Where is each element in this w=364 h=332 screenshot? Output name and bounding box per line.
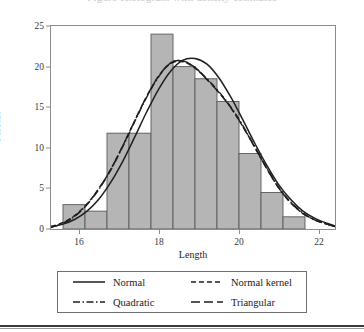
legend-line-swatch [190,277,224,287]
histogram-bar [129,133,151,229]
legend-item: Quadratic [58,297,182,308]
y-tick-label: 25 [35,21,45,31]
figure: Figure Histogram with density estimates … [0,0,364,332]
plot-area [50,25,336,230]
x-axis: 16182022 Length [50,230,336,256]
legend-label: Quadratic [113,297,154,308]
x-tick-mark [319,230,320,234]
y-axis-label: Percent [0,112,2,142]
histogram-bar [195,79,217,229]
x-tick-label: 20 [234,237,244,247]
chart-title-cropped: Figure Histogram with density estimates [0,0,364,9]
legend-item: Normal kernel [182,277,306,288]
histogram-bar [283,217,305,229]
plot-inner [51,26,335,229]
legend-line-swatch [190,297,224,307]
histogram-bar [85,211,107,229]
plot-svg [51,26,335,229]
legend-label: Normal [113,277,145,288]
x-tick-label: 18 [154,237,164,247]
x-tick-label: 16 [74,237,84,247]
legend-line-swatch [72,277,106,287]
legend-grid: NormalNormal kernelQuadraticTriangular [58,272,306,312]
legend: NormalNormal kernelQuadraticTriangular [57,271,307,313]
histogram-bar [217,102,239,229]
histogram-bar [261,192,283,229]
legend-item: Triangular [182,297,306,308]
histogram-bar [107,133,129,229]
x-tick-mark [79,230,80,234]
page-rule [0,325,364,327]
x-tick-label: 22 [314,237,324,247]
x-axis-label: Length [50,249,336,260]
histogram-bar [239,153,261,229]
x-tick-mark [159,230,160,234]
page-rule-secondary [0,328,364,329]
y-tick-label: 5 [39,183,44,193]
histogram-bar [173,67,195,229]
legend-item: Normal [58,277,182,288]
y-tick-label: 15 [35,102,45,112]
y-axis: Percent 0510152025 [0,25,50,230]
legend-label: Triangular [231,297,275,308]
y-tick-label: 20 [35,62,45,72]
y-tick-label: 10 [35,143,45,153]
y-tick-label: 0 [39,224,44,234]
legend-label: Normal kernel [231,277,292,288]
chart-title-text: Figure Histogram with density estimates [87,0,277,3]
legend-line-swatch [72,297,106,307]
x-tick-mark [239,230,240,234]
